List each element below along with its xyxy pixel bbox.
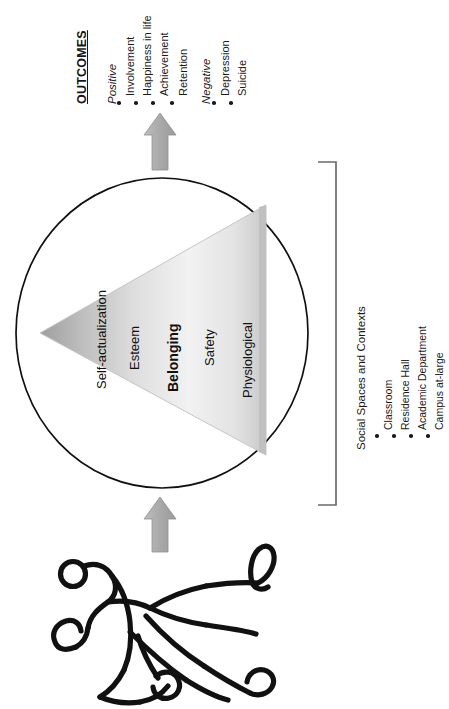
bullet-dot: [134, 101, 138, 105]
context-item: Academic Department: [417, 326, 428, 430]
bullet-dot: [375, 434, 379, 438]
outcomes-item: Happiness in life: [142, 15, 153, 96]
running-person-figure: [54, 546, 274, 703]
diagram-canvas: OUTCOMES Positive Involvement Happiness …: [0, 0, 449, 709]
bullet-dot: [170, 101, 174, 105]
pyramid-level-belonging: Belonging: [166, 324, 180, 392]
bullet-dot: [409, 434, 413, 438]
outcomes-heading: OUTCOMES: [76, 30, 89, 104]
outcomes-group-label-negative: Negative: [201, 59, 213, 104]
outcomes-item: Retention: [178, 49, 189, 96]
outcomes-item: Involvement: [125, 37, 136, 96]
context-title: Social Spaces and Contexts: [356, 306, 368, 450]
bullet-dot: [392, 434, 396, 438]
outcomes-group-label-positive: Positive: [107, 64, 119, 104]
bullet-dot: [426, 434, 430, 438]
bullet-dot: [229, 101, 233, 105]
pyramid-level-self-actualization: Self-actualization: [95, 290, 108, 389]
arrow-circle-to-outcomes-icon: [144, 113, 176, 170]
pyramid-level-physiological: Physiological: [241, 322, 254, 398]
bullet-dot: [151, 101, 155, 105]
diagram-graphics: [0, 0, 449, 709]
context-bracket: [318, 162, 336, 505]
context-item: Residence Hall: [400, 359, 411, 430]
outcomes-item: Suicide: [237, 60, 248, 96]
bullet-dot: [212, 101, 216, 105]
outcomes-item: Depression: [220, 40, 231, 96]
pyramid-level-safety: Safety: [203, 329, 216, 366]
maslow-pyramid: [40, 205, 266, 455]
arrow-person-to-circle-icon: [144, 497, 176, 552]
context-item: Classroom: [383, 380, 394, 430]
outcomes-item: Achievement: [159, 32, 170, 96]
bullet-dot: [117, 101, 121, 105]
context-item: Campus at-large: [434, 352, 445, 430]
pyramid-level-esteem: Esteem: [128, 326, 141, 370]
